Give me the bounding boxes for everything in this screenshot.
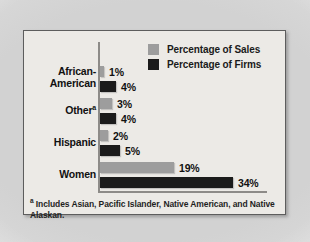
bar-line-sales: 2% xyxy=(100,129,140,142)
category-label-african-american: African- American xyxy=(0,66,96,89)
bar-sales xyxy=(100,162,174,173)
legend-item-sales: Percentage of Sales xyxy=(148,42,261,56)
bar-firms xyxy=(100,145,120,156)
category-label-hispanic: Hispanic xyxy=(0,137,96,149)
footnote-text: Includes Asian, Pacific Islander, Native… xyxy=(30,199,275,220)
scanned-figure-page: Percentage of Sales Percentage of Firms … xyxy=(0,0,310,242)
legend-label-sales: Percentage of Sales xyxy=(167,44,260,55)
chart-footnote: a Includes Asian, Pacific Islander, Nati… xyxy=(30,199,280,221)
category-label-line1: Hispanic xyxy=(54,136,96,148)
category-label-other: Othera xyxy=(0,105,96,117)
bar-value-sales: 19% xyxy=(179,162,199,174)
bar-firms xyxy=(100,177,233,188)
bar-line-sales: 19% xyxy=(100,161,258,174)
category-label-line1: African- xyxy=(58,65,96,77)
bar-value-sales: 2% xyxy=(113,130,128,142)
bar-line-firms: 4% xyxy=(100,80,136,93)
legend-swatch-sales xyxy=(148,44,159,55)
bar-group-hispanic: Hispanic 2% 5% xyxy=(24,129,285,161)
bar-value-sales: 1% xyxy=(109,66,124,78)
bar-group-other: Othera 3% 4% xyxy=(24,97,285,129)
footnote-marker: a xyxy=(92,104,96,111)
bar-sales xyxy=(100,130,108,141)
bar-group-women: Women 19% 34% xyxy=(24,161,285,193)
bar-value-firms: 4% xyxy=(121,113,136,125)
bar-firms xyxy=(100,81,116,92)
bar-value-sales: 3% xyxy=(117,98,132,110)
bar-line-sales: 3% xyxy=(100,97,136,110)
bar-value-firms: 34% xyxy=(238,177,258,189)
category-label-women: Women xyxy=(0,169,96,181)
bar-value-firms: 5% xyxy=(125,145,140,157)
category-label-line2: American xyxy=(50,77,96,89)
chart-panel: Percentage of Sales Percentage of Firms … xyxy=(23,30,286,215)
bar-rows: African- American 1% 4% xyxy=(24,65,285,193)
bar-line-firms: 34% xyxy=(100,176,258,189)
category-label-line1: Women xyxy=(59,168,96,180)
category-label-line1: Other xyxy=(65,104,92,116)
bar-line-firms: 4% xyxy=(100,112,136,125)
bar-line-sales: 1% xyxy=(100,65,136,78)
footnote-marker: a xyxy=(30,197,34,204)
bars-african-american: 1% 4% xyxy=(100,65,136,95)
bars-other: 3% 4% xyxy=(100,97,136,127)
bar-sales xyxy=(100,66,104,77)
bar-firms xyxy=(100,113,116,124)
chart-plot-area: Percentage of Sales Percentage of Firms … xyxy=(24,31,285,214)
bars-hispanic: 2% 5% xyxy=(100,129,140,159)
bar-group-african-american: African- American 1% 4% xyxy=(24,65,285,97)
bar-sales xyxy=(100,98,112,109)
bar-value-firms: 4% xyxy=(121,81,136,93)
bars-women: 19% 34% xyxy=(100,161,258,191)
bar-line-firms: 5% xyxy=(100,144,140,157)
